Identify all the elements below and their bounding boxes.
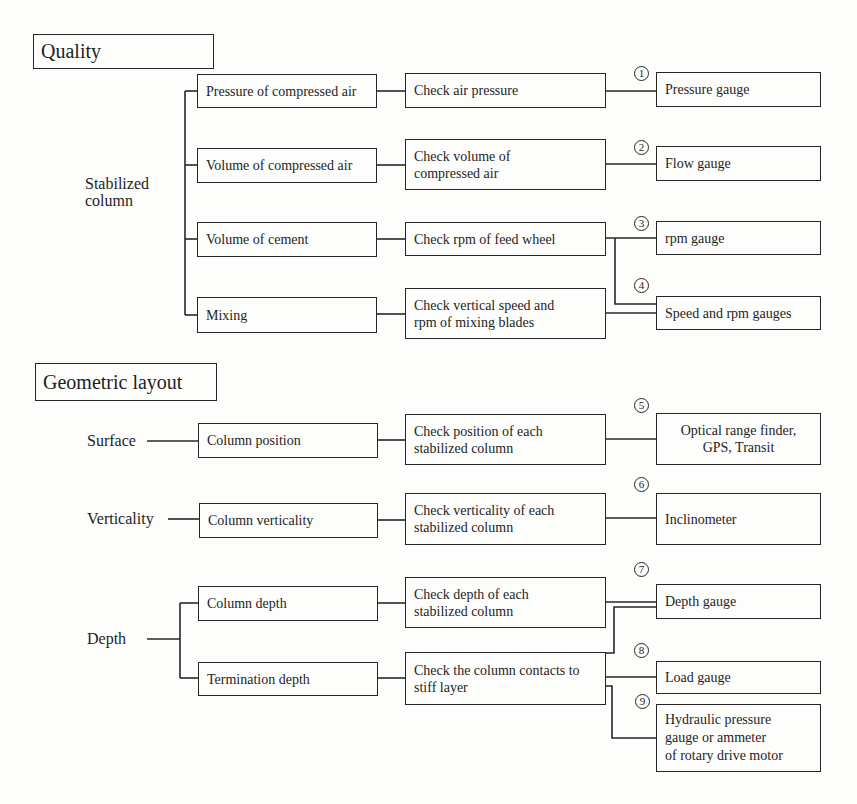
item-box: Column position bbox=[198, 423, 378, 458]
step-number-circle: 3 bbox=[634, 216, 649, 231]
section-heading-geometric-layout: Geometric layout bbox=[35, 363, 217, 401]
tool-box: Load gauge bbox=[656, 661, 821, 694]
item-box: Mixing bbox=[197, 297, 377, 333]
group-label-depth: Depth bbox=[87, 630, 126, 647]
check-box: Check the column contacts to stiff layer bbox=[405, 652, 606, 705]
step-number-circle: 7 bbox=[634, 562, 649, 577]
group-label-verticality: Verticality bbox=[87, 510, 154, 527]
tool-box: Flow gauge bbox=[656, 146, 821, 181]
check-box: Check verticality of each stabilized col… bbox=[405, 493, 606, 545]
check-box: Check depth of each stabilized column bbox=[405, 577, 606, 628]
tool-box: Hydraulic pressure gauge or ammeter of r… bbox=[656, 704, 821, 772]
tool-box: Optical range finder, GPS, Transit bbox=[656, 413, 821, 465]
step-number-circle: 6 bbox=[634, 477, 649, 492]
item-box: Pressure of compressed air bbox=[197, 74, 377, 108]
section-title: Geometric layout bbox=[43, 371, 182, 394]
step-number-circle: 9 bbox=[635, 694, 650, 709]
item-box: Volume of compressed air bbox=[197, 148, 377, 183]
tool-box: Depth gauge bbox=[656, 584, 821, 619]
check-box: Check rpm of feed wheel bbox=[405, 222, 606, 256]
section-title: Quality bbox=[41, 40, 101, 63]
item-box: Column depth bbox=[198, 586, 378, 621]
check-box: Check vertical speed and rpm of mixing b… bbox=[405, 288, 606, 339]
item-box: Volume of cement bbox=[197, 222, 377, 257]
group-label-surface: Surface bbox=[87, 432, 136, 449]
step-number-circle: 5 bbox=[634, 398, 649, 413]
step-number-circle: 2 bbox=[634, 140, 649, 155]
step-number-circle: 8 bbox=[634, 643, 649, 658]
tool-box: Inclinometer bbox=[656, 493, 821, 545]
tool-box: rpm gauge bbox=[656, 221, 821, 255]
section-heading-quality: Quality bbox=[33, 34, 214, 69]
group-label-stabilized-column: Stabilized column bbox=[85, 175, 165, 209]
tool-box: Pressure gauge bbox=[656, 72, 821, 107]
step-number-circle: 4 bbox=[634, 278, 649, 293]
step-number-circle: 1 bbox=[634, 66, 649, 81]
tool-box: Speed and rpm gauges bbox=[656, 296, 821, 330]
check-box: Check volume of compressed air bbox=[405, 139, 606, 190]
check-box: Check air pressure bbox=[405, 73, 606, 108]
item-box: Column verticality bbox=[199, 503, 378, 538]
check-box: Check position of each stabilized column bbox=[405, 414, 606, 465]
item-box: Termination depth bbox=[198, 662, 378, 696]
